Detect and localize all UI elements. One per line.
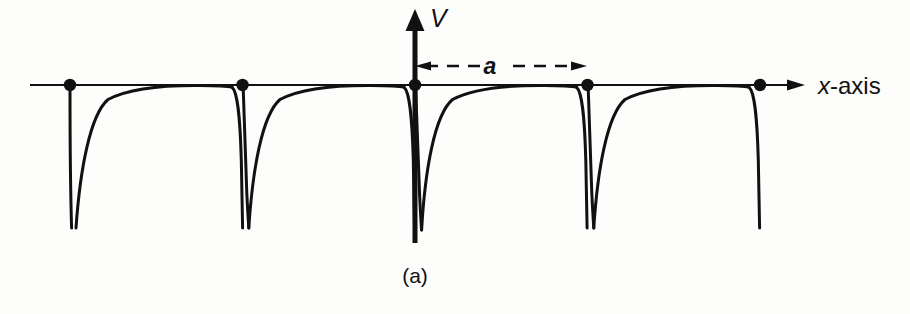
x-axis-label-symbol: x — [817, 72, 831, 99]
lattice-site-dot — [409, 79, 421, 91]
periodic-coulomb-potential-figure: a V x-axis (a) — [0, 0, 910, 314]
lattice-site-dot — [64, 79, 76, 91]
lattice-site-dot — [236, 79, 248, 91]
x-axis-label: x-axis — [817, 72, 881, 99]
potential-branch-right-site--2 — [70, 88, 72, 228]
figure-container: a V x-axis (a) — [0, 0, 910, 314]
figure-caption: (a) — [402, 264, 428, 287]
x-axis-label-suffix: -axis — [830, 72, 881, 99]
figure-background — [0, 0, 910, 314]
lattice-spacing-label: a — [484, 53, 497, 79]
lattice-site-dot — [581, 79, 593, 91]
lattice-site-dot — [754, 79, 766, 91]
v-axis-label: V — [430, 4, 449, 32]
